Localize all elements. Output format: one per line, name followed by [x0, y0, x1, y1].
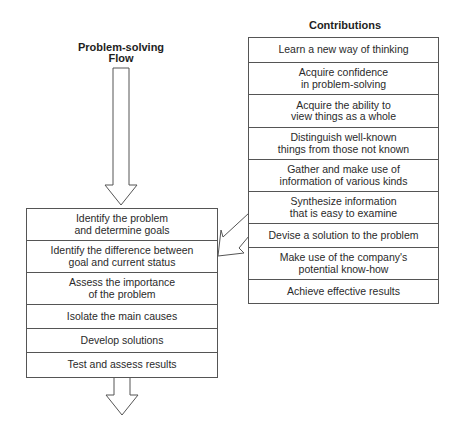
flow-step: Test and assess results — [27, 353, 217, 377]
contribution-label: Acquire confidence in problem-solving — [299, 67, 388, 90]
contribution-label: Acquire the ability to view things as a … — [291, 100, 396, 123]
top-down-arrow-icon — [105, 68, 137, 205]
contribution-item: Distinguish well-known things from those… — [249, 128, 438, 160]
contribution-label: Synthesize information that is easy to e… — [290, 196, 397, 219]
contribution-item: Gather and make use of information of va… — [249, 160, 438, 192]
flow-step-label: Test and assess results — [67, 359, 176, 371]
contribution-item: Make use of the company's potential know… — [249, 248, 438, 280]
contribution-item: Acquire the ability to view things as a … — [249, 95, 438, 128]
contribution-label: Distinguish well-known things from those… — [278, 132, 409, 155]
flow-step: Develop solutions — [27, 329, 217, 353]
flow-step-label: Identify the problem and determine goals — [74, 213, 169, 236]
flow-step: Assess the importance of the problem — [27, 273, 217, 305]
bottom-down-arrow-icon — [106, 377, 138, 415]
flow-step: Identify the problem and determine goals — [27, 209, 217, 241]
contribution-item: Acquire confidence in problem-solving — [249, 63, 438, 95]
contribution-item: Synthesize information that is easy to e… — [249, 192, 438, 224]
contribution-item: Devise a solution to the problem — [249, 224, 438, 248]
contribution-label: Achieve effective results — [287, 286, 400, 298]
flow-step-label: Isolate the main causes — [67, 311, 177, 323]
diagonal-left-arrow-icon — [218, 213, 249, 256]
flow-step: Isolate the main causes — [27, 305, 217, 329]
flow-steps-box: Identify the problem and determine goals… — [26, 208, 218, 378]
flow-step-label: Develop solutions — [81, 335, 164, 347]
contribution-label: Devise a solution to the problem — [269, 230, 419, 242]
flow-step-label: Identify the difference between goal and… — [51, 245, 194, 268]
contribution-label: Learn a new way of thinking — [278, 44, 408, 56]
contribution-item: Learn a new way of thinking — [249, 38, 438, 63]
contribution-item: Achieve effective results — [249, 280, 438, 304]
contributions-box: Learn a new way of thinking Acquire conf… — [248, 37, 439, 304]
contribution-label: Gather and make use of information of va… — [280, 164, 408, 187]
flow-step-label: Assess the importance of the problem — [69, 277, 175, 300]
flow-step: Identify the difference between goal and… — [27, 241, 217, 273]
contribution-label: Make use of the company's potential know… — [280, 252, 408, 275]
